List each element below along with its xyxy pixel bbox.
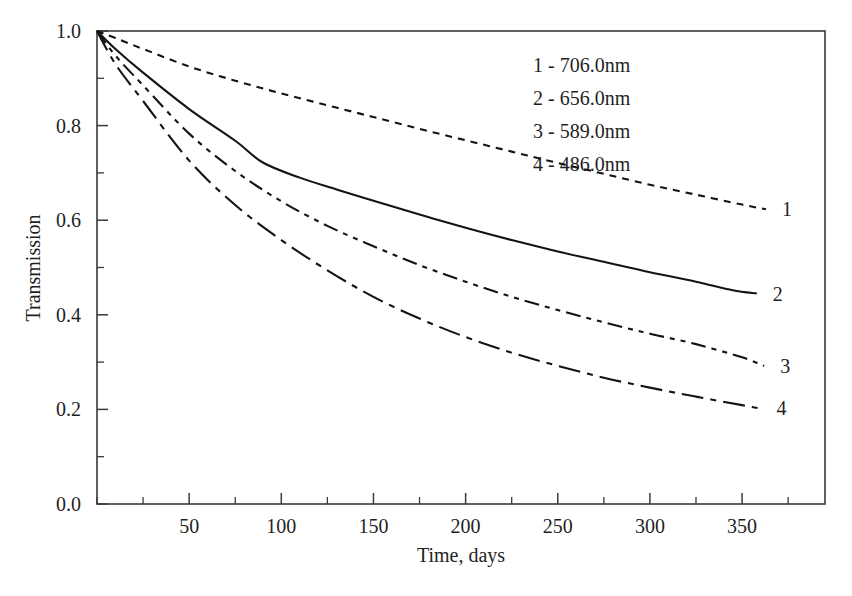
y-axis-title: Transmission xyxy=(22,214,44,321)
x-axis-title: Time, days xyxy=(417,544,505,567)
x-tick-label: 50 xyxy=(179,515,199,537)
y-tick-label: 0.2 xyxy=(56,398,81,420)
y-tick-label: 0.6 xyxy=(56,209,81,231)
y-tick-label: 1.0 xyxy=(56,20,81,42)
y-tick-label: 0.0 xyxy=(56,493,81,515)
transmission-vs-time-chart: 50100150200250300350 0.00.20.40.60.81.0 … xyxy=(0,0,852,596)
y-tick-label: 0.4 xyxy=(56,304,81,326)
x-tick-label: 350 xyxy=(727,515,757,537)
legend-entry-2: 2 - 656.0nm xyxy=(533,87,631,109)
x-tick-label: 100 xyxy=(266,515,296,537)
x-tick-label: 300 xyxy=(635,515,665,537)
chart-figure: 50100150200250300350 0.00.20.40.60.81.0 … xyxy=(0,0,852,596)
x-tick-label: 200 xyxy=(451,515,481,537)
x-tick-label: 150 xyxy=(358,515,388,537)
legend-entry-1: 1 - 706.0nm xyxy=(533,54,631,76)
legend-entry-3: 3 - 589.0nm xyxy=(533,120,631,142)
figure-background xyxy=(0,0,852,596)
curve-end-label-1: 1 xyxy=(782,198,792,220)
curve-end-label-3: 3 xyxy=(780,355,790,377)
curve-end-label-2: 2 xyxy=(773,283,783,305)
legend-entry-4: 4 - 486.0nm xyxy=(533,153,631,175)
curve-end-label-4: 4 xyxy=(776,397,786,419)
x-tick-label: 250 xyxy=(543,515,573,537)
y-tick-label: 0.8 xyxy=(56,115,81,137)
